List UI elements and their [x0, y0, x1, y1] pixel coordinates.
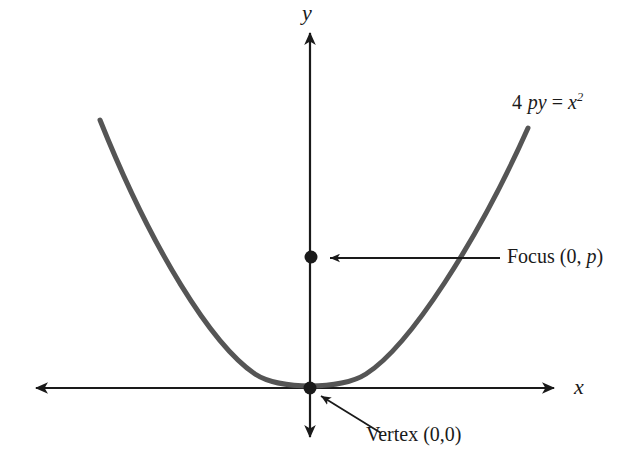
curve-equation-label: 4 py = x2	[512, 92, 583, 112]
figure-canvas	[0, 0, 618, 463]
parabola-figure: y x 4 py = x2 Focus (0, p) Vertex (0,0)	[0, 0, 618, 463]
focus-label-prefix: Focus (0,	[507, 245, 581, 267]
vertex-label: Vertex (0,0)	[366, 424, 462, 444]
equation-operator: =	[552, 91, 563, 113]
vertex-label-coords: (0,0)	[423, 423, 461, 445]
vertex-label-prefix: Vertex	[366, 423, 418, 445]
y-axis-label: y	[302, 2, 312, 24]
focus-label-suffix: )	[596, 245, 603, 267]
equation-right-base: x	[568, 91, 577, 113]
x-axis-label: x	[574, 376, 584, 398]
focus-label: Focus (0, p)	[507, 246, 603, 266]
equation-coefficient: 4	[512, 91, 522, 113]
vertex-point-dot	[304, 382, 317, 395]
equation-right-exponent: 2	[577, 90, 583, 104]
equation-variables: py	[528, 91, 547, 113]
focus-point-dot	[305, 251, 318, 264]
focus-label-variable: p	[586, 245, 596, 267]
